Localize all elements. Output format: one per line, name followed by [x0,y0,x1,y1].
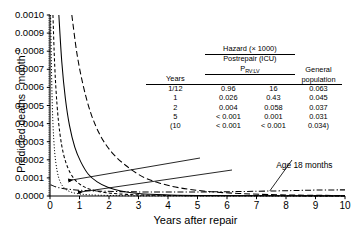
table-cell-c06: 0.43 [252,94,295,103]
table-cell-c04: < 0.001 [205,121,252,130]
general-header-line2: population [295,75,342,85]
annotation-age-18-months-text: Age 18 months [276,160,332,170]
column-header-row: Years population [146,75,342,85]
table-cell-cgen: 0.045 [295,94,342,103]
table-cell-years: 5 [146,112,205,121]
table-cell-cgen: 0.031 [295,112,342,121]
table-row: 20.0040.0580.037 [146,103,342,112]
table-row: 5< 0.0010.0010.031 [146,112,342,121]
y-axis-minor-tick-marks [48,15,50,196]
table-cell-years: (10 [146,121,205,130]
hazard-title-row: Hazard (× 1000) [146,45,342,55]
p-subscript-cell: PRV:LV [205,64,295,75]
table-cell-years: 1 [146,94,205,103]
hazard-table-body: 1/120.96160.06310.0260.430.04520.0040.05… [146,84,342,130]
col-header-06 [252,75,295,85]
table-cell-cgen: 0.034) [295,121,342,130]
hazard-title-cell: Hazard (× 1000) [205,45,295,55]
legend-data-table: Hazard (× 1000) Postrepair (ICU) PRV:LV … [146,45,342,130]
col-header-04 [205,75,252,85]
p-spacer [146,64,205,75]
figure-container: Predicted deaths · month-1 Years after r… [0,0,363,237]
p-subscript: RV:LV [245,68,259,74]
hazard-title-spacer [146,45,205,55]
table-cell-c04: < 0.001 [205,112,252,121]
table-cell-c04: 0.004 [205,103,252,112]
table-cell-c06: 0.058 [252,103,295,112]
postrepair-spacer [146,55,205,65]
postrepair-header-cell: Postrepair (ICU) [205,55,295,65]
col-header-years: Years [146,75,205,85]
table-cell-c06: 0.001 [252,112,295,121]
table-cell-years: 2 [146,103,205,112]
table-cell-c06: < 0.001 [252,121,295,130]
general-header-line1: General [295,64,342,75]
hazard-table: Hazard (× 1000) Postrepair (ICU) PRV:LV … [146,45,342,130]
table-row: (10< 0.001< 0.0010.034) [146,121,342,130]
leader-lines [68,158,292,192]
table-row: 10.0260.430.045 [146,94,342,103]
table-cell-cgen: 0.037 [295,103,342,112]
hazard-title-spacer-right [295,45,342,55]
p-subscript-row: PRV:LV General [146,64,342,75]
postrepair-spacer-right [295,55,342,65]
table-cell-c04: 0.026 [205,94,252,103]
annotation-age-18-months: Age 18 months [276,160,332,170]
